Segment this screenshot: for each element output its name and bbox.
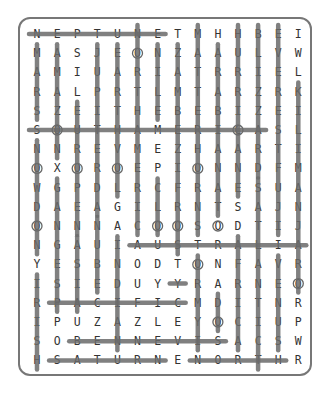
grid-letter[interactable]: E: [68, 198, 86, 216]
grid-letter[interactable]: A: [28, 63, 46, 81]
grid-letter[interactable]: A: [289, 236, 307, 254]
grid-letter[interactable]: S: [269, 121, 287, 139]
grid-letter[interactable]: O: [189, 159, 207, 177]
grid-letter[interactable]: A: [48, 198, 66, 216]
grid-letter[interactable]: E: [68, 102, 86, 120]
grid-letter[interactable]: A: [68, 236, 86, 254]
grid-letter[interactable]: R: [129, 179, 147, 197]
grid-letter[interactable]: I: [249, 63, 267, 81]
grid-letter[interactable]: A: [108, 63, 126, 81]
grid-letter[interactable]: R: [269, 83, 287, 101]
grid-letter[interactable]: S: [68, 44, 86, 62]
grid-letter[interactable]: W: [289, 332, 307, 350]
grid-letter[interactable]: S: [269, 332, 287, 350]
grid-letter[interactable]: L: [68, 83, 86, 101]
grid-letter[interactable]: U: [129, 275, 147, 293]
grid-letter[interactable]: Z: [249, 102, 267, 120]
grid-letter[interactable]: N: [108, 332, 126, 350]
grid-letter[interactable]: D: [28, 198, 46, 216]
grid-letter[interactable]: M: [169, 83, 187, 101]
grid-letter[interactable]: R: [229, 275, 247, 293]
grid-letter[interactable]: G: [48, 179, 66, 197]
grid-letter[interactable]: R: [88, 159, 106, 177]
grid-letter[interactable]: U: [269, 313, 287, 331]
grid-letter[interactable]: L: [149, 198, 167, 216]
grid-letter[interactable]: S: [249, 179, 267, 197]
grid-letter[interactable]: I: [68, 275, 86, 293]
grid-letter[interactable]: W: [289, 44, 307, 62]
grid-letter[interactable]: P: [48, 313, 66, 331]
grid-letter[interactable]: I: [189, 332, 207, 350]
grid-letter[interactable]: B: [249, 25, 267, 43]
grid-letter[interactable]: I: [88, 102, 106, 120]
grid-letter[interactable]: T: [249, 217, 267, 235]
grid-letter[interactable]: R: [229, 83, 247, 101]
grid-letter[interactable]: L: [149, 83, 167, 101]
grid-letter[interactable]: P: [68, 179, 86, 197]
grid-letter[interactable]: B: [169, 102, 187, 120]
grid-letter[interactable]: E: [88, 332, 106, 350]
grid-letter[interactable]: O: [209, 217, 227, 235]
grid-letter[interactable]: E: [129, 159, 147, 177]
grid-letter[interactable]: N: [149, 44, 167, 62]
grid-letter[interactable]: S: [28, 332, 46, 350]
grid-letter[interactable]: D: [149, 255, 167, 273]
grid-letter[interactable]: U: [68, 121, 86, 139]
grid-letter[interactable]: L: [108, 179, 126, 197]
grid-letter[interactable]: U: [88, 236, 106, 254]
grid-letter[interactable]: O: [48, 332, 66, 350]
grid-letter[interactable]: K: [289, 83, 307, 101]
grid-letter[interactable]: D: [209, 294, 227, 312]
grid-letter[interactable]: O: [169, 217, 187, 235]
grid-letter[interactable]: A: [209, 44, 227, 62]
grid-letter[interactable]: G: [108, 198, 126, 216]
grid-letter[interactable]: I: [229, 294, 247, 312]
grid-letter[interactable]: E: [269, 102, 287, 120]
grid-letter[interactable]: S: [48, 351, 66, 369]
grid-letter[interactable]: A: [129, 121, 147, 139]
grid-letter[interactable]: N: [108, 255, 126, 273]
grid-letter[interactable]: V: [108, 140, 126, 158]
grid-letter[interactable]: T: [169, 255, 187, 273]
grid-letter[interactable]: E: [48, 255, 66, 273]
grid-letter[interactable]: H: [269, 351, 287, 369]
grid-letter[interactable]: A: [108, 313, 126, 331]
grid-letter[interactable]: Z: [88, 313, 106, 331]
grid-letter[interactable]: O: [28, 159, 46, 177]
grid-letter[interactable]: D: [88, 179, 106, 197]
grid-letter[interactable]: A: [189, 44, 207, 62]
grid-letter[interactable]: R: [229, 63, 247, 81]
grid-letter[interactable]: O: [289, 275, 307, 293]
grid-letter[interactable]: U: [149, 236, 167, 254]
grid-letter[interactable]: H: [189, 140, 207, 158]
grid-letter[interactable]: H: [28, 351, 46, 369]
grid-letter[interactable]: A: [68, 294, 86, 312]
grid-letter[interactable]: D: [108, 275, 126, 293]
grid-letter[interactable]: F: [129, 294, 147, 312]
grid-letter[interactable]: I: [269, 236, 287, 254]
grid-letter[interactable]: C: [129, 217, 147, 235]
grid-letter[interactable]: T: [249, 351, 267, 369]
grid-letter[interactable]: N: [68, 217, 86, 235]
grid-letter[interactable]: S: [209, 332, 227, 350]
grid-letter[interactable]: I: [108, 236, 126, 254]
grid-letter[interactable]: U: [229, 44, 247, 62]
grid-letter[interactable]: V: [269, 255, 287, 273]
grid-letter[interactable]: S: [169, 236, 187, 254]
grid-letter[interactable]: D: [229, 217, 247, 235]
grid-letter[interactable]: O: [209, 313, 227, 331]
grid-letter[interactable]: I: [249, 313, 267, 331]
grid-letter[interactable]: A: [129, 236, 147, 254]
grid-letter[interactable]: S: [229, 198, 247, 216]
grid-letter[interactable]: E: [169, 313, 187, 331]
grid-letter[interactable]: T: [269, 140, 287, 158]
grid-letter[interactable]: A: [289, 179, 307, 197]
grid-letter[interactable]: E: [189, 102, 207, 120]
grid-letter[interactable]: A: [48, 83, 66, 101]
grid-letter[interactable]: T: [88, 351, 106, 369]
grid-letter[interactable]: N: [189, 351, 207, 369]
grid-letter[interactable]: E: [48, 25, 66, 43]
grid-letter[interactable]: X: [48, 159, 66, 177]
grid-letter[interactable]: C: [249, 332, 267, 350]
grid-letter[interactable]: H: [209, 25, 227, 43]
